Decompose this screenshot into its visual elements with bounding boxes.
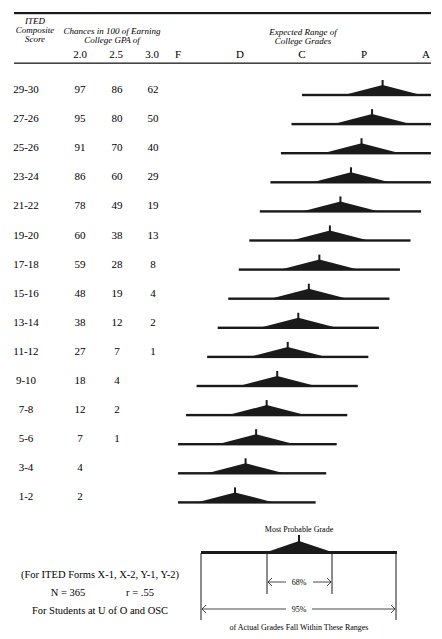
table-row: 23-24866029	[13, 170, 159, 182]
gpa-2-0-cell: 2	[77, 490, 83, 502]
range-68-triangle	[313, 172, 390, 182]
gpa-2-0-cell: 91	[75, 141, 86, 153]
range-68-triangle	[249, 347, 326, 357]
gpa-2-5-cell: 4	[114, 374, 120, 386]
range-mark-23-24	[270, 167, 431, 183]
range-68-triangle	[323, 143, 400, 153]
gpa-3-0-cell: 2	[150, 316, 156, 328]
gpa-2-0-cell: 59	[75, 258, 87, 270]
n-value: N = 365	[51, 587, 86, 598]
range-68-triangle	[291, 231, 368, 241]
score-cell: 13-14	[13, 316, 39, 328]
gpa-2-0-cell: 86	[75, 170, 87, 182]
range-mark-3-4	[178, 458, 326, 474]
range-mark-9-10	[197, 371, 358, 387]
score-cell: 21-22	[13, 199, 39, 211]
legend-peak-tick	[298, 535, 300, 542]
gpa-3-0-cell: 62	[148, 83, 159, 95]
table-row: 27-26958050	[13, 112, 159, 124]
range-mark-17-18	[239, 255, 400, 271]
gpa-3-0-cell: 50	[148, 112, 160, 124]
gpa-2-5-cell: 86	[112, 83, 124, 95]
most-probable-tick	[245, 458, 247, 464]
grade-label-f: F	[175, 48, 181, 60]
range-68-triangle	[281, 260, 358, 270]
gpa-2-0-cell: 60	[75, 229, 87, 241]
grade-label-p: P	[361, 48, 367, 60]
gpa-2-5-cell: 2	[114, 403, 120, 415]
gpa-3-0-cell: 4	[150, 287, 156, 299]
score-cell: 3-4	[19, 461, 34, 473]
table-row: 9-10184	[16, 374, 120, 386]
gpa-3-0-cell: 8	[150, 258, 156, 270]
top-rule	[14, 12, 431, 14]
most-probable-tick	[350, 167, 352, 173]
gpa-2-5-cell: 49	[112, 199, 124, 211]
table-row: 25-26917040	[13, 141, 159, 153]
gpa-2-5-cell: 60	[112, 170, 124, 182]
range-mark-1-2	[178, 487, 316, 503]
gpa-2-0-cell: 78	[75, 199, 87, 211]
legend-caption: of Actual Grades Fall Within These Range…	[230, 623, 369, 632]
gpa-column-3-0: 3.0	[145, 48, 159, 60]
score-header-line-3: Score	[25, 34, 45, 44]
gpa-2-5-cell: 12	[112, 316, 123, 328]
table-body: 29-3097866227-2695805025-2691704023-2486…	[13, 83, 159, 502]
most-probable-tick	[276, 371, 278, 377]
table-row: 7-8122	[19, 403, 120, 415]
grade-expectancy-table: ITED Composite Score Chances in 100 of E…	[0, 0, 442, 639]
gpa-3-0-cell: 40	[148, 141, 160, 153]
score-cell: 29-30	[13, 83, 39, 95]
range-mark-29-30	[302, 80, 431, 96]
legend-peak-label: Most Probable Grade	[265, 525, 334, 534]
gpa-2-0-cell: 48	[75, 287, 87, 299]
grade-axis: FDCPA	[175, 48, 430, 60]
range-68-triangle	[270, 289, 347, 299]
score-cell: 23-24	[13, 170, 39, 182]
legend-triangle	[267, 541, 332, 552]
legend-95-label: 95%	[292, 605, 307, 614]
gpa-3-0-cell: 19	[148, 199, 160, 211]
gpa-2-5-cell: 1	[114, 432, 120, 444]
chances-header-line-2: College GPA of	[84, 35, 141, 45]
gpa-3-0-cell: 1	[150, 345, 156, 357]
gpa-2-0-cell: 12	[75, 403, 86, 415]
range-header-line-2: College Grades	[275, 36, 332, 46]
range-68-triangle	[197, 492, 274, 502]
gpa-2-5-cell: 28	[112, 258, 124, 270]
table-row: 1-22	[19, 490, 83, 502]
score-cell: 7-8	[19, 403, 34, 415]
gpa-2-0-cell: 38	[75, 316, 87, 328]
score-cell: 9-10	[16, 374, 37, 386]
range-mark-15-16	[228, 284, 389, 300]
legend-diagram: Most Probable Grade 68% 95% of Actual Gr…	[201, 525, 397, 632]
range-68-triangle	[239, 376, 316, 386]
range-mark-25-26	[281, 138, 431, 154]
score-cell: 15-16	[13, 287, 39, 299]
gpa-2-0-cell: 95	[75, 112, 87, 124]
r-value: r = .55	[126, 587, 154, 598]
range-68-triangle	[207, 463, 284, 473]
gpa-2-5-cell: 19	[112, 287, 124, 299]
range-mark-19-20	[249, 226, 410, 242]
table-row: 11-122771	[13, 345, 155, 357]
table-row: 15-1648194	[13, 287, 156, 299]
score-cell: 25-26	[13, 141, 39, 153]
most-probable-tick	[234, 487, 236, 493]
range-68-triangle	[302, 201, 379, 211]
header-rule	[14, 63, 431, 64]
most-probable-tick	[382, 80, 384, 86]
forms-note: (For ITED Forms X-1, X-2, Y-1, Y-2)	[21, 569, 180, 581]
range-mark-11-12	[207, 342, 368, 358]
grade-label-d: D	[236, 48, 244, 60]
range-68-triangle	[260, 318, 337, 328]
table-row: 21-22784919	[13, 199, 159, 211]
table-row: 17-1859288	[13, 258, 156, 270]
table-row: 5-671	[19, 432, 120, 444]
table-row: 29-30978662	[13, 83, 158, 95]
score-cell: 1-2	[19, 490, 34, 502]
score-cell: 11-12	[13, 345, 38, 357]
score-cell: 5-6	[19, 432, 34, 444]
range-mark-21-22	[260, 196, 421, 212]
most-probable-tick	[266, 400, 268, 406]
